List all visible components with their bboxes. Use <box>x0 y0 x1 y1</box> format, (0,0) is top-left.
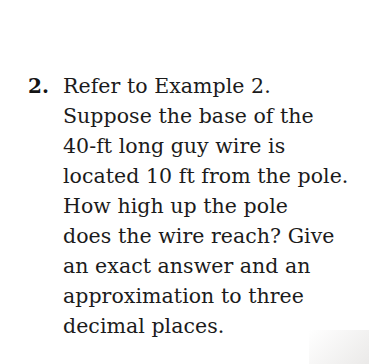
text-line: an exact answer and an <box>63 251 369 281</box>
problem-text: Refer to Example 2. Suppose the base of … <box>63 71 369 341</box>
text-line: located 10 ft from the pole. <box>63 161 369 191</box>
text-line: 40-ft long guy wire is <box>63 131 369 161</box>
problem-number-marker: 2. <box>28 71 49 101</box>
problem-row: 2. Refer to Example 2. Suppose the base … <box>0 71 369 341</box>
text-line: How high up the pole <box>63 191 369 221</box>
text-line: Suppose the base of the <box>63 101 369 131</box>
document-page: 2. Refer to Example 2. Suppose the base … <box>0 0 369 364</box>
text-line: approximation to three <box>63 281 369 311</box>
text-line: does the wire reach? Give <box>63 221 369 251</box>
text-line: Refer to Example 2. <box>63 71 369 101</box>
text-line: decimal places. <box>63 311 369 341</box>
problem-block: 2. Refer to Example 2. Suppose the base … <box>0 71 369 341</box>
